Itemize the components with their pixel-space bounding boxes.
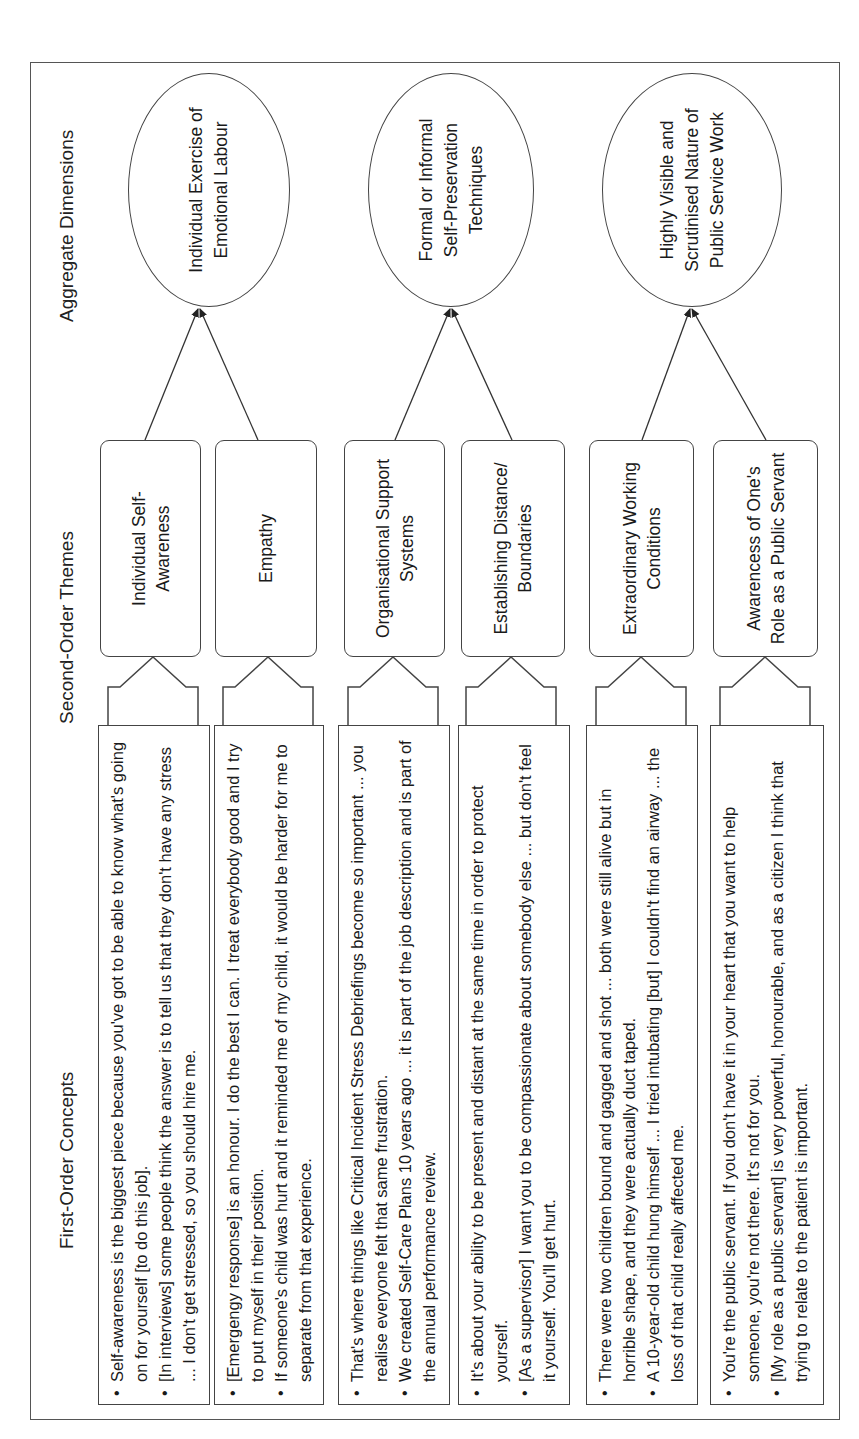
concept-bullet: There were two children bound and gagged… — [593, 734, 641, 1396]
dimension-emotional-labour: Individual Exercise of Emotional Labour — [128, 73, 290, 307]
concept-bullet: [My role as a public servant] is very po… — [765, 734, 813, 1396]
concept-bullet: [In interviews] some people think the an… — [153, 734, 201, 1396]
concept-bullet: [Emergengy response] is an honour. I do … — [221, 734, 269, 1396]
block-arrow-6 — [720, 657, 810, 725]
dimension-public-service-work: Highly Visible and Scrutinised Nature of… — [602, 73, 782, 307]
concept-box-working-conditions: There were two children bound and gagged… — [586, 725, 698, 1405]
dimension-label: Formal or Informal Self-Preservation Tec… — [414, 104, 489, 276]
concept-bullet: [As a supervisor] I want you to be compa… — [513, 734, 561, 1396]
block-arrow-2 — [223, 657, 313, 725]
theme-label: Extraordinary Working Conditions — [618, 451, 666, 646]
concept-bullet: If someone's child was hurt and it remin… — [269, 734, 317, 1396]
theme-label: Awarencess of One's Role as a Public Ser… — [742, 451, 790, 646]
theme-extraordinary-working-conditions: Extraordinary Working Conditions — [589, 440, 694, 657]
dimension-label: Highly Visible and Scrutinised Nature of… — [655, 104, 730, 276]
concept-box-public-servant-role: You're the public servant. If you don't … — [710, 725, 824, 1405]
link-theme6-dim3 — [692, 309, 766, 440]
block-arrow-1 — [108, 657, 198, 725]
concept-bullet: It's about your ability to be present an… — [465, 734, 513, 1396]
concept-box-organisational-support: That's where things like Critical Incide… — [338, 725, 450, 1405]
link-theme5-dim3 — [642, 309, 690, 440]
concept-bullet: That's where things like Critical Incide… — [345, 734, 393, 1396]
link-theme1-dim1 — [145, 309, 198, 440]
concept-bullet: A 10-year-old child hung himself ... I t… — [641, 734, 689, 1396]
concept-box-self-awareness: Self-awareness is the biggest piece beca… — [98, 725, 210, 1405]
link-theme2-dim1 — [200, 309, 258, 440]
theme-label: Individual Self-Awareness — [127, 451, 175, 646]
block-arrow-4 — [466, 657, 556, 725]
concept-bullet: You're the public servant. If you don't … — [717, 734, 765, 1396]
dimension-label: Individual Exercise of Emotional Labour — [184, 104, 234, 276]
theme-individual-self-awareness: Individual Self-Awareness — [100, 440, 201, 657]
block-arrow-5 — [596, 657, 686, 725]
theme-empathy: Empathy — [215, 440, 317, 657]
block-arrow-3 — [348, 657, 438, 725]
theme-label: Empathy — [254, 514, 278, 583]
concept-box-empathy: [Emergengy response] is an honour. I do … — [214, 725, 324, 1405]
block-arrows — [108, 657, 810, 725]
theme-awareness-public-servant-role: Awarencess of One's Role as a Public Ser… — [713, 440, 818, 657]
dimension-self-preservation: Formal or Informal Self-Preservation Tec… — [368, 73, 534, 307]
concept-box-distance-boundaries: It's about your ability to be present an… — [458, 725, 570, 1405]
theme-label: Establishing Distance/ Boundaries — [489, 451, 537, 646]
theme-organisational-support-systems: Organisational Support Systems — [344, 440, 445, 657]
concept-bullet: Self-awareness is the biggest piece beca… — [105, 734, 153, 1396]
concept-bullet: We created Self-Care Plans 10 years ago … — [393, 734, 441, 1396]
diagram-stage: First-Order Concepts Second-Order Themes… — [0, 0, 859, 1439]
link-theme4-dim2 — [452, 309, 512, 440]
theme-label: Organisational Support Systems — [371, 451, 419, 646]
link-theme3-dim2 — [395, 309, 450, 440]
theme-establishing-distance-boundaries: Establishing Distance/ Boundaries — [461, 440, 565, 657]
